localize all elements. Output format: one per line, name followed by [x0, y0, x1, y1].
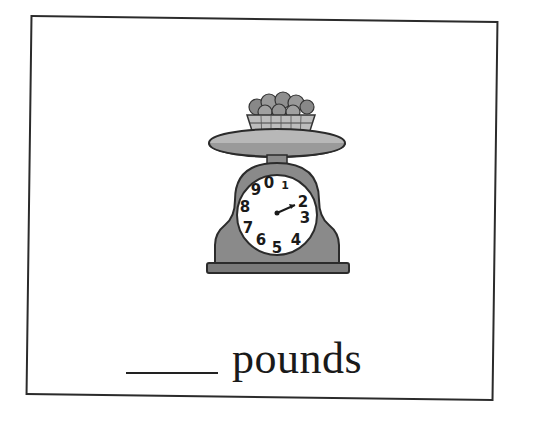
- svg-text:8: 8: [240, 198, 250, 216]
- svg-text:9: 9: [251, 181, 261, 199]
- answer-row: pounds: [92, 355, 422, 415]
- unit-label: pounds: [232, 333, 362, 384]
- svg-text:7: 7: [243, 219, 253, 237]
- svg-text:4: 4: [291, 231, 301, 249]
- scale-dial: 0 1 2 3 4 5 6 7 8 9: [237, 174, 317, 257]
- svg-text:1: 1: [281, 179, 289, 192]
- scale-illustration: 0 1 2 3 4 5 6 7 8 9: [195, 85, 360, 280]
- answer-blank[interactable]: [126, 372, 218, 374]
- svg-text:5: 5: [272, 239, 282, 257]
- svg-text:6: 6: [256, 231, 266, 249]
- scale-tray: [209, 129, 345, 157]
- svg-text:0: 0: [264, 174, 274, 192]
- svg-text:3: 3: [300, 209, 310, 227]
